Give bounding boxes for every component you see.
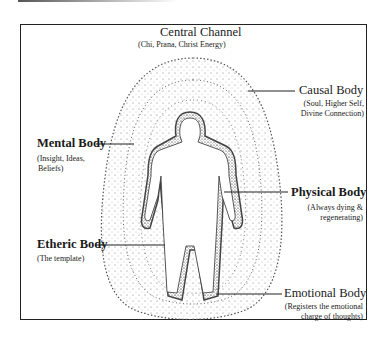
physical-body-title: Physical Body: [291, 185, 366, 200]
causal-body-subtitle-2: Divine Connection): [301, 109, 364, 119]
emotional-body-subtitle-2: charge of thoughts): [301, 312, 363, 322]
central-channel-subtitle: (Chi, Prana, Christ Energy): [138, 40, 226, 50]
mental-body-title: Mental Body: [37, 136, 106, 151]
mental-body-subtitle-1: (Insight, Ideas,: [37, 154, 85, 164]
physical-body-subtitle-1: (Always dying &: [307, 203, 363, 213]
emotional-body-title: Emotional Body: [284, 286, 366, 301]
causal-body-subtitle-1: (Soul, Higher Self,: [304, 99, 364, 109]
etheric-body-subtitle: (The template): [37, 254, 84, 264]
central-channel-title: Central Channel: [160, 25, 242, 40]
emotional-body-subtitle-1: (Registers the emotional: [285, 302, 363, 312]
causal-body-title: Causal Body: [299, 83, 363, 98]
mental-body-subtitle-2: Beliefs): [38, 164, 63, 174]
etheric-body-title: Etheric Body: [37, 237, 107, 252]
physical-body-subtitle-2: regenerating): [320, 213, 363, 223]
